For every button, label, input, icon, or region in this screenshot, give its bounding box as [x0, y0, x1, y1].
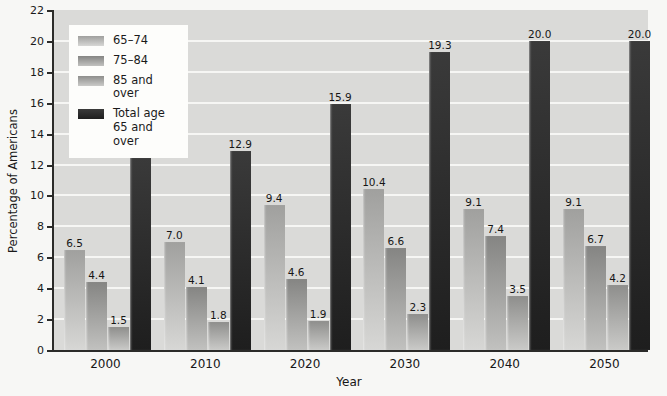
x-axis-title: Year	[336, 375, 361, 389]
bar-2030-65–74	[363, 189, 384, 350]
bar-col: 12.4	[130, 145, 151, 350]
bar-value-label: 12.9	[219, 138, 261, 150]
y-tick-label-16: 16	[0, 97, 44, 110]
bar-2040-Total-age-65-and-over	[529, 41, 550, 350]
plot-area: 6.54.41.512.47.04.11.812.99.44.61.915.91…	[52, 10, 648, 352]
bar-2050-75–84	[585, 246, 606, 350]
bar-2050-65–74	[563, 209, 584, 350]
bar-value-label: 20.0	[618, 28, 660, 40]
y-tick-mark-22	[47, 10, 52, 12]
bar-value-label: 9.1	[552, 196, 594, 208]
y-tick-mark-8	[47, 226, 52, 228]
x-tick-label-2050: 2050	[561, 357, 648, 371]
y-tick-label-0: 0	[0, 344, 44, 357]
bar-value-label: 7.4	[475, 223, 517, 235]
bar-group-2020: 9.44.61.915.9	[264, 10, 351, 350]
x-tick-label-2000: 2000	[62, 357, 149, 371]
bar-value-label: 6.7	[574, 233, 616, 245]
bar-col: 19.3	[429, 39, 450, 350]
bar-col: 1.9	[308, 308, 329, 350]
y-tick-label-2: 2	[0, 313, 44, 326]
bar-2010-Total-age-65-and-over	[230, 151, 251, 350]
y-tick-mark-2	[47, 319, 52, 321]
bar-col: 10.4	[363, 176, 384, 350]
y-tick-label-14: 14	[0, 128, 44, 141]
y-tick-label-8: 8	[0, 220, 44, 233]
bar-2020-85-and-over	[308, 321, 329, 350]
bar-2000-85-and-over	[108, 327, 129, 350]
y-tick-mark-20	[47, 41, 52, 43]
bar-value-label: 4.4	[76, 269, 118, 281]
bar-col: 6.7	[585, 233, 606, 350]
legend-item: 75–84	[78, 54, 180, 68]
legend-item: Total age 65 and over	[78, 107, 180, 148]
bar-col: 20.0	[629, 28, 650, 350]
bar-col: 4.4	[86, 269, 107, 350]
y-tick-mark-14	[47, 134, 52, 136]
bar-col: 1.5	[108, 314, 129, 350]
age-distribution-bar-chart: Percentage of Americans 6.54.41.512.47.0…	[0, 0, 667, 396]
bar-2000-65–74	[64, 250, 85, 350]
y-tick-label-12: 12	[0, 159, 44, 172]
bar-col: 7.0	[164, 229, 185, 350]
x-tick-label-2040: 2040	[461, 357, 548, 371]
y-tick-label-6: 6	[0, 251, 44, 264]
legend-item: 85 and over	[78, 74, 180, 102]
x-tick-label-2010: 2010	[162, 357, 249, 371]
y-tick-mark-6	[47, 257, 52, 259]
bar-col: 1.8	[208, 309, 229, 350]
y-tick-label-18: 18	[0, 66, 44, 79]
bar-value-label: 20.0	[519, 28, 561, 40]
bar-value-label: 9.4	[253, 192, 295, 204]
bar-2030-Total-age-65-and-over	[429, 52, 450, 350]
bar-value-label: 19.3	[419, 39, 461, 51]
bar-2010-85-and-over	[208, 322, 229, 350]
bar-col: 4.2	[607, 272, 628, 350]
bar-2050-Total-age-65-and-over	[629, 41, 650, 350]
bar-col: 9.1	[563, 196, 584, 350]
y-tick-mark-16	[47, 103, 52, 105]
bar-col: 6.5	[64, 237, 85, 350]
legend: 65–7475–8485 and overTotal age 65 and ov…	[69, 25, 188, 158]
bar-group-2030: 10.46.62.319.3	[363, 10, 450, 350]
bar-value-label: 7.0	[153, 229, 195, 241]
bar-2050-85-and-over	[607, 285, 628, 350]
bar-col: 3.5	[507, 283, 528, 350]
y-tick-mark-12	[47, 165, 52, 167]
legend-swatch-icon	[78, 36, 104, 46]
bar-2030-75–84	[385, 248, 406, 350]
bar-group-2050: 9.16.74.220.0	[563, 10, 650, 350]
legend-swatch-icon	[78, 109, 104, 119]
bar-value-label: 6.6	[375, 235, 417, 247]
bar-2040-85-and-over	[507, 296, 528, 350]
legend-label: 85 and over	[113, 74, 180, 102]
bar-2020-Total-age-65-and-over	[330, 104, 351, 350]
bar-col: 2.3	[407, 301, 428, 350]
bar-2030-85-and-over	[407, 314, 428, 350]
bar-value-label: 6.5	[54, 237, 96, 249]
bar-2010-65–74	[164, 242, 185, 350]
y-tick-mark-0	[47, 350, 52, 352]
y-tick-label-20: 20	[0, 35, 44, 48]
y-tick-mark-18	[47, 72, 52, 74]
x-axis-labels: 200020102020203020402050	[54, 357, 652, 371]
bar-col: 15.9	[330, 91, 351, 350]
legend-swatch-icon	[78, 76, 104, 86]
legend-label: 65–74	[113, 34, 148, 48]
legend-label: 75–84	[113, 54, 148, 68]
x-tick-label-2030: 2030	[361, 357, 448, 371]
bar-col: 12.9	[230, 138, 251, 350]
bar-col: 6.6	[385, 235, 406, 350]
bar-value-label: 9.1	[453, 196, 495, 208]
legend-item: 65–74	[78, 34, 180, 48]
y-tick-label-10: 10	[0, 189, 44, 202]
bar-2000-Total-age-65-and-over	[130, 158, 151, 350]
legend-label: Total age 65 and over	[113, 107, 180, 148]
bar-group-2040: 9.17.43.520.0	[463, 10, 550, 350]
bar-value-label: 4.6	[275, 266, 317, 278]
y-tick-label-4: 4	[0, 282, 44, 295]
bar-col: 9.1	[463, 196, 484, 350]
legend-swatch-icon	[78, 56, 104, 66]
bar-value-label: 15.9	[319, 91, 361, 103]
x-tick-label-2020: 2020	[262, 357, 349, 371]
